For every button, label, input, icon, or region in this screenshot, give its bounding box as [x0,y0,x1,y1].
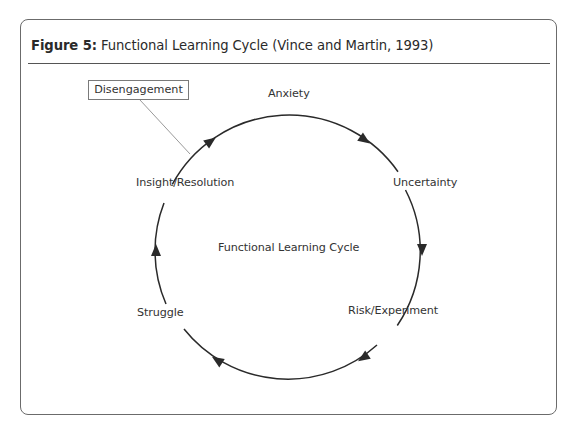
stage-struggle: Struggle [137,306,184,319]
arrow-icon [151,244,161,256]
stage-insight-resolution: Insight/Resolution [136,176,234,189]
center-label: Functional Learning Cycle [218,241,359,254]
arrow-icon [203,133,219,148]
stage-uncertainty: Uncertainty [393,176,457,189]
arrow-icon [417,244,427,256]
arc-risk-to-struggle [184,329,377,379]
cycle-diagram [0,0,576,431]
arc-insight-to-uncertainty [172,115,398,184]
disengagement-callout: Disengagement [88,80,189,100]
stage-anxiety: Anxiety [268,87,310,100]
callout-leader-line [140,100,190,154]
stage-risk-experiment: Risk/Experiment [348,304,438,317]
